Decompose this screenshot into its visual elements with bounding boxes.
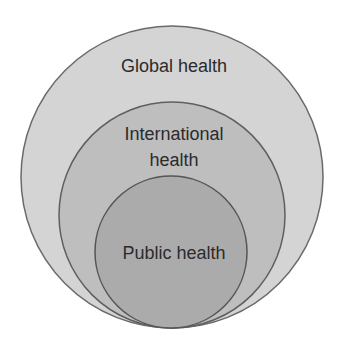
international-health-label-line1: International <box>0 124 348 144</box>
nested-circles-diagram <box>0 0 348 349</box>
international-health-label-line2: health <box>0 150 348 170</box>
public-health-label: Public health <box>0 243 348 263</box>
global-health-label: Global health <box>0 56 348 76</box>
